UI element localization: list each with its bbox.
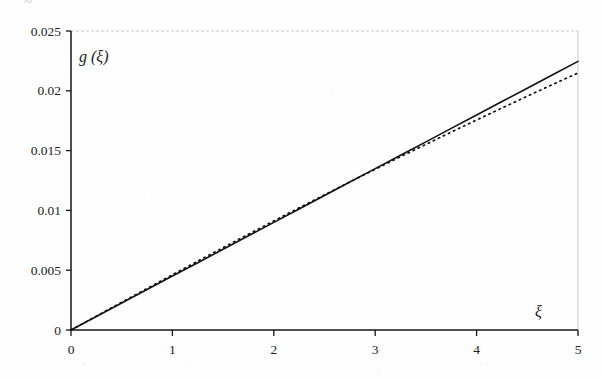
x-tick-label: 4 [473, 342, 480, 357]
x-tick-label: 3 [372, 342, 379, 357]
x-tick-label: 2 [270, 342, 277, 357]
x-axis-tick-labels: 012345 [68, 342, 582, 357]
x-tick-label: 5 [575, 342, 582, 357]
chart-plot-area: 00.0050.010.0150.020.025 012345 g (ξ) ξ [0, 0, 601, 379]
y-tick-label: 0.015 [31, 143, 62, 158]
y-tick-label: 0.005 [31, 263, 62, 278]
x-tick-label: 0 [68, 342, 75, 357]
x-axis-label: ξ [535, 303, 542, 320]
y-tick-label: 0.025 [31, 24, 62, 39]
series-dotted-curve [71, 73, 578, 330]
y-tick-label: 0.02 [37, 83, 61, 98]
y-axis-tick-labels: 00.0050.010.0150.020.025 [31, 24, 62, 338]
x-tick-label: 1 [169, 342, 176, 357]
figure-canvas: ~ 00.0050.010.0150.020.025 012345 g (ξ) … [0, 0, 601, 379]
x-axis-ticks [71, 330, 578, 336]
data-series-layer [71, 61, 578, 330]
y-tick-label: 0 [54, 323, 61, 338]
y-axis-label: g (ξ) [79, 48, 109, 66]
y-tick-label: 0.01 [37, 203, 61, 218]
